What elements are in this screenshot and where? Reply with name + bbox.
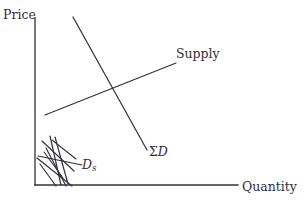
diagram-svg xyxy=(0,0,305,206)
aggregate-demand-curve xyxy=(73,17,147,150)
aggregate-demand-d-glyph: D xyxy=(158,144,168,159)
supply-curve xyxy=(45,63,176,115)
figure-canvas: Price Quantity Supply ΣD Ds xyxy=(0,0,305,206)
individual-demand-curve xyxy=(52,140,76,159)
aggregate-demand-curve-group xyxy=(73,17,147,150)
aggregate-demand-curve-label: ΣD xyxy=(149,146,168,159)
supply-curve-label: Supply xyxy=(176,48,220,61)
quantity-axis-label: Quantity xyxy=(242,181,297,194)
sigma-glyph: Σ xyxy=(149,144,158,159)
individual-demand-curve-label: Ds xyxy=(82,159,96,173)
price-axis-label: Price xyxy=(3,9,36,22)
individual-demand-d-glyph: D xyxy=(82,157,92,172)
individual-demand-subscript: s xyxy=(92,163,96,173)
individual-demand-cluster xyxy=(37,136,82,186)
supply-curve-group xyxy=(45,63,176,115)
axes-group xyxy=(35,18,238,185)
